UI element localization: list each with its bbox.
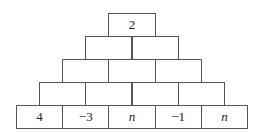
pyramid-cell (108, 59, 155, 83)
pyramid-cell (178, 82, 225, 106)
pyramid-cell: −3 (62, 105, 109, 129)
pyramid-cell: n (201, 105, 248, 129)
pyramid-cell (155, 59, 202, 83)
pyramid-cell: 2 (108, 13, 155, 37)
pyramid-cell: 4 (16, 105, 63, 129)
pyramid-cell: n (108, 105, 155, 129)
pyramid-cell (85, 36, 132, 60)
pyramid-cell (62, 59, 109, 83)
pyramid-cell (132, 82, 179, 106)
pyramid-cell: −1 (155, 105, 202, 129)
pyramid-cell (85, 82, 132, 106)
pyramid-cell (132, 36, 179, 60)
pyramid-cell (39, 82, 86, 106)
